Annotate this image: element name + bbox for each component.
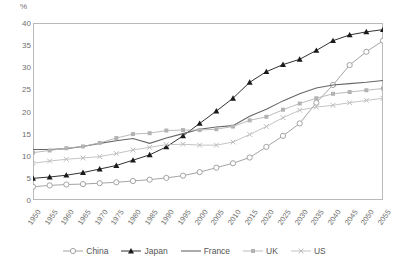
legend-label: US bbox=[314, 246, 326, 256]
chart-legend: ChinaJapanFranceUKUS bbox=[0, 241, 389, 261]
legend-marker-filled-triangle-icon bbox=[121, 246, 141, 256]
legend-marker-none-icon bbox=[181, 246, 201, 256]
legend-item-china[interactable]: China bbox=[63, 246, 108, 256]
legend-item-uk[interactable]: UK bbox=[243, 246, 278, 256]
legend-item-us[interactable]: US bbox=[291, 246, 326, 256]
legend-marker-small-square-icon bbox=[243, 246, 263, 256]
legend-marker-x-icon bbox=[291, 246, 311, 256]
legend-label: France bbox=[204, 246, 230, 256]
legend-marker-open-circle-icon bbox=[63, 246, 83, 256]
legend-label: Japan bbox=[144, 246, 167, 256]
legend-label: China bbox=[86, 246, 108, 256]
legend-item-japan[interactable]: Japan bbox=[121, 246, 167, 256]
data-point-marker bbox=[251, 249, 255, 253]
legend-item-france[interactable]: France bbox=[181, 246, 230, 256]
legend-label: UK bbox=[266, 246, 278, 256]
data-point-marker bbox=[71, 248, 76, 253]
